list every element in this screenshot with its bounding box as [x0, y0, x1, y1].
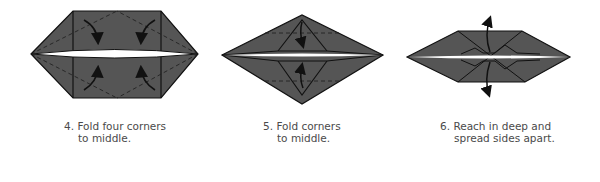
step-6-caption: 6. Reach in deep and spread sides apart.	[440, 120, 555, 144]
step-5-text-line1: Fold corners	[276, 120, 340, 132]
step-4-figure	[31, 11, 198, 98]
step-5-text-line2: to middle.	[263, 132, 341, 144]
step-6-figure	[407, 18, 570, 95]
step-4-number: 4.	[64, 120, 74, 132]
step-5-figure	[222, 15, 383, 104]
step-4-text-line1: Fold four corners	[77, 120, 166, 132]
step-5-number: 5.	[263, 120, 273, 132]
step-5-caption: 5. Fold corners to middle.	[263, 120, 341, 144]
step-4-caption: 4. Fold four corners to middle.	[64, 120, 166, 144]
origami-diagram	[0, 0, 600, 182]
step-4-text-line2: to middle.	[64, 132, 166, 144]
step-6-text-line1: Reach in deep and	[453, 120, 551, 132]
step-6-text-line2: spread sides apart.	[440, 132, 555, 144]
step-6-number: 6.	[440, 120, 450, 132]
